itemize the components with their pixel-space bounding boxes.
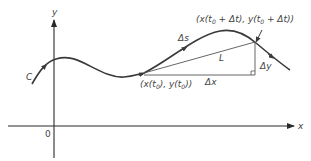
arc-delta-s-label: Δs: [177, 33, 189, 43]
curve-label: C: [26, 72, 33, 82]
origin-label: 0: [45, 129, 51, 139]
arc-length-diagram: x y 0 C Δs L Δy Δx (x(t0), y(t0)) (x(t0 …: [0, 0, 311, 161]
chord-l: [144, 42, 255, 73]
x-axis-label: x: [297, 121, 304, 131]
curve-c: [32, 30, 290, 84]
end-point-pointer-arrow-icon: [257, 30, 262, 40]
start-point-label: (x(t0), y(t0)): [140, 79, 192, 90]
chord-l-label: L: [219, 53, 224, 63]
end-point-label: (x(t0 + Δt), y(t0 + Δt)): [196, 14, 294, 25]
y-axis-label: y: [51, 7, 58, 17]
delta-x-label: Δx: [204, 77, 217, 87]
delta-y-label: Δy: [259, 61, 272, 71]
right-angle-marker: [251, 71, 255, 75]
